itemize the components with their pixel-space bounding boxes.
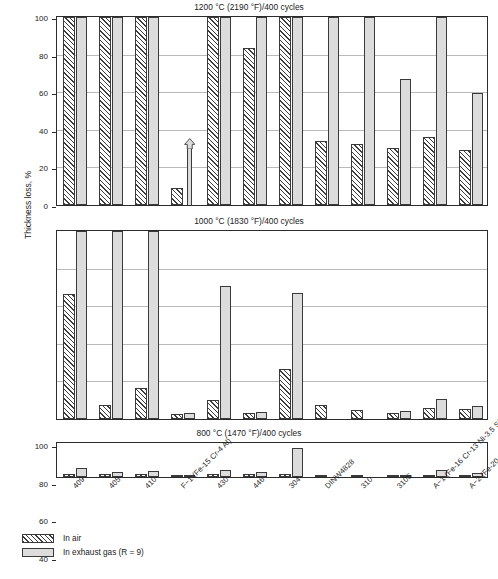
- bar-in-air: [243, 48, 255, 205]
- bar-in-exhaust-gas: [184, 413, 196, 419]
- bar-in-exhaust-gas: [472, 406, 484, 419]
- y-axis-tick: [52, 207, 56, 208]
- bar-in-air: [99, 405, 111, 419]
- y-axis-tick-label: 20: [16, 164, 48, 173]
- bar-in-air: [315, 141, 327, 205]
- bar-in-exhaust-gas: [472, 93, 484, 205]
- bar-in-air: [459, 475, 471, 477]
- bar-in-air: [135, 474, 147, 477]
- legend-label-gas: In exhaust gas (R = 9): [63, 548, 144, 557]
- bar-in-exhaust-gas: [256, 412, 268, 419]
- bar-in-air: [387, 475, 399, 477]
- bar-in-air: [423, 137, 435, 205]
- bar-in-air: [351, 144, 363, 205]
- bar-in-air: [243, 413, 255, 419]
- legend-swatch-air: [22, 534, 54, 543]
- panel-800c-title: 800 °C (1470 °F)/400 cycles: [0, 428, 498, 438]
- panel-1200c-plot: [56, 16, 488, 206]
- bar-in-air: [63, 17, 75, 205]
- bar-in-exhaust-gas: [220, 17, 232, 205]
- bar-in-air: [171, 414, 183, 419]
- y-axis-tick-label: 0: [16, 202, 48, 211]
- bar-in-air: [423, 475, 435, 477]
- y-axis-tick-label: 80: [16, 52, 48, 61]
- panel-1000c-title: 1000 °C (1830 °F)/400 cycles: [0, 216, 498, 226]
- bar-in-air: [423, 408, 435, 419]
- bar-in-air: [459, 150, 471, 205]
- panel-800c: 800 °C (1470 °F)/400 cycles 020: [0, 428, 498, 483]
- legend-swatch-gas: [22, 548, 54, 557]
- arrow-shaft: [187, 145, 193, 205]
- figure-root: Thickness loss, % 1200 °C (2190 °F)/400 …: [0, 0, 498, 579]
- y-axis-tick: [52, 94, 56, 95]
- bar-in-exhaust-gas: [220, 286, 232, 419]
- bar-in-air: [135, 17, 147, 205]
- bar-in-exhaust-gas: [400, 79, 412, 205]
- bar-arrow-exhaust-gas: [184, 135, 196, 205]
- bar-in-air: [279, 474, 291, 477]
- bar-in-air: [171, 475, 183, 477]
- bar-in-air: [387, 148, 399, 205]
- bar-in-exhaust-gas: [292, 293, 304, 419]
- bar-in-air: [63, 474, 75, 477]
- bar-in-exhaust-gas: [76, 17, 88, 205]
- bar-in-exhaust-gas: [112, 231, 124, 419]
- bar-in-exhaust-gas: [76, 231, 88, 419]
- bar-in-air: [279, 369, 291, 419]
- bar-in-air: [63, 294, 75, 419]
- y-axis-tick-label: 60: [16, 89, 48, 98]
- bar-in-air: [99, 474, 111, 477]
- panel-1200c-title: 1200 °C (2190 °F)/400 cycles: [0, 2, 498, 12]
- bar-in-exhaust-gas: [148, 231, 160, 419]
- bar-in-exhaust-gas: [436, 17, 448, 205]
- chart-legend: In airIn exhaust gas (R = 9): [22, 534, 262, 566]
- bar-in-exhaust-gas: [328, 17, 340, 205]
- bar-in-air: [171, 188, 183, 205]
- bar-in-exhaust-gas: [112, 17, 124, 205]
- panel-1000c-plot: [56, 230, 488, 420]
- bar-in-exhaust-gas: [364, 17, 376, 205]
- y-axis-tick-label: 100: [16, 14, 48, 23]
- bar-in-air: [459, 409, 471, 419]
- bar-in-air: [387, 413, 399, 419]
- y-axis-tick: [52, 57, 56, 58]
- bar-in-air: [351, 475, 363, 477]
- panel-800c-plot: [56, 442, 488, 478]
- y-axis-tick-label: 40: [16, 127, 48, 136]
- bar-in-air: [207, 474, 219, 477]
- bar-in-exhaust-gas: [400, 411, 412, 419]
- y-axis-tick: [52, 19, 56, 20]
- legend-label-air: In air: [63, 534, 81, 543]
- legend-item-air: In air: [22, 534, 81, 543]
- bar-in-exhaust-gas: [436, 399, 448, 419]
- bar-in-exhaust-gas: [148, 17, 160, 205]
- y-axis-tick: [52, 169, 56, 170]
- bar-in-air: [135, 388, 147, 419]
- bar-in-air: [279, 17, 291, 205]
- bar-in-air: [351, 410, 363, 419]
- bar-in-air: [207, 17, 219, 205]
- panel-1200c: 1200 °C (2190 °F)/400 cycles 02040608010…: [0, 2, 498, 212]
- bar-in-exhaust-gas: [292, 17, 304, 205]
- bar-in-air: [207, 400, 219, 419]
- bar-in-exhaust-gas: [292, 448, 304, 477]
- arrow-head-icon: [184, 135, 196, 146]
- panel-1000c: 1000 °C (1830 °F)/400 cycles 02040608010…: [0, 216, 498, 428]
- bar-in-air: [99, 17, 111, 205]
- bar-in-air: [243, 474, 255, 477]
- legend-item-gas: In exhaust gas (R = 9): [22, 548, 144, 557]
- bar-in-air: [315, 405, 327, 419]
- y-axis-tick: [52, 132, 56, 133]
- bar-in-air: [315, 475, 327, 477]
- bar-in-exhaust-gas: [256, 17, 268, 205]
